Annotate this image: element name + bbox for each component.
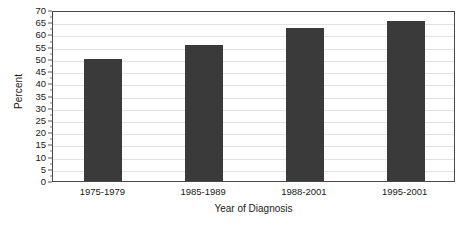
y-axis-tick-label: 45	[35, 67, 46, 77]
y-axis-tick-label: 70	[35, 6, 46, 16]
y-axis-tick-label: 65	[35, 18, 46, 28]
y-axis-tick-label: 20	[35, 128, 46, 138]
y-axis-tick-label: 50	[35, 55, 46, 65]
y-axis-tick-label: 55	[35, 43, 46, 53]
y-axis-tick-label: 5	[41, 165, 46, 175]
plot-area	[52, 11, 455, 182]
y-axis-tick-label: 15	[35, 141, 46, 151]
bar-chart-figure: Percent 0510152025303540455055606570 197…	[0, 0, 471, 235]
y-axis-tick-labels: 0510152025303540455055606570	[26, 11, 46, 182]
bar	[84, 59, 122, 181]
x-axis-tick-labels: 1975-19791985-19891988-20011995-2001	[52, 185, 455, 199]
x-axis-tick-label: 1988-2001	[281, 185, 326, 199]
y-axis-tick-label: 25	[35, 116, 46, 126]
x-axis-tick-label: 1975-1979	[80, 185, 125, 199]
y-axis-tick-label: 30	[35, 104, 46, 114]
y-axis-title-text: Percent	[14, 73, 25, 108]
y-axis-tick-label: 0	[41, 177, 46, 187]
y-axis-tick-label: 40	[35, 80, 46, 90]
y-axis-tick-label: 35	[35, 92, 46, 102]
bar	[387, 21, 425, 181]
y-axis-tick-label: 10	[35, 153, 46, 163]
x-axis-tick-label: 1985-1989	[180, 185, 225, 199]
y-axis-tick-label: 60	[35, 31, 46, 41]
bar	[185, 45, 223, 181]
x-axis-title: Year of Diagnosis	[52, 203, 455, 214]
bar-series	[53, 12, 454, 181]
bar	[286, 28, 324, 181]
x-axis-tick-label: 1995-2001	[382, 185, 427, 199]
